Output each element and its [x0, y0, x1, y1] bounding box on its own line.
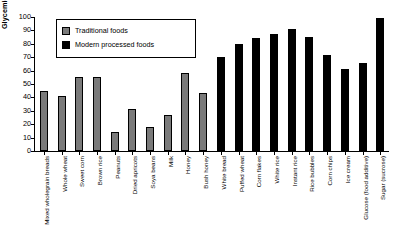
glycemic-index-bar-chart: Glycemic index 0102030405060708090100 Mi… — [0, 0, 393, 238]
y-tick-mark — [31, 84, 35, 85]
x-tick-mark — [168, 152, 169, 155]
bar — [235, 44, 243, 151]
x-label-slot: Bush honey — [194, 156, 212, 238]
x-label-slot: Ice cream — [336, 156, 354, 238]
x-tick-mark — [115, 152, 116, 155]
x-tick-label: Ice cream — [345, 156, 352, 236]
x-tick-mark — [62, 152, 63, 155]
bar — [376, 18, 384, 151]
y-tick-label: 90 — [10, 26, 31, 34]
bar-slot — [318, 17, 336, 151]
y-tick-label: 40 — [10, 93, 31, 101]
x-tick-label: Puffed wheat — [239, 156, 246, 236]
bar — [40, 91, 48, 151]
x-label-slot: Brown rice — [88, 156, 106, 238]
bar — [359, 63, 367, 151]
x-tick-label: Corn flakes — [256, 156, 263, 236]
x-tick-label: Milk — [168, 156, 175, 236]
y-tick-label: 60 — [10, 67, 31, 75]
bar-slot — [283, 17, 301, 151]
bar — [164, 115, 172, 151]
y-tick-mark — [31, 138, 35, 139]
x-tick-label: Corn chips — [327, 156, 334, 236]
x-tick-mark — [203, 152, 204, 155]
x-label-slot: Milk — [159, 156, 177, 238]
y-tick-label: 30 — [10, 107, 31, 115]
x-label-slot: Dried apricots — [124, 156, 142, 238]
bar — [252, 38, 260, 151]
x-tick-mark — [309, 152, 310, 155]
x-label-slot: Corn flakes — [247, 156, 265, 238]
x-label-slot: White rice — [265, 156, 283, 238]
y-tick-label: 0 — [10, 147, 31, 155]
y-tick-mark — [31, 44, 35, 45]
x-tick-mark — [150, 152, 151, 155]
x-label-slot: Instant rice — [283, 156, 301, 238]
x-tick-label: Peanuts — [115, 156, 122, 236]
x-tick-label: Sweet corn — [79, 156, 86, 236]
y-tick-mark — [31, 71, 35, 72]
bar — [341, 69, 349, 151]
x-tick-label: Sugar (sucrose) — [380, 156, 387, 236]
y-tick-label: 50 — [10, 80, 31, 88]
x-label-slot: Puffed wheat — [230, 156, 248, 238]
legend-item: Modern processed foods — [62, 38, 190, 52]
x-tick-label: Soya beans — [150, 156, 157, 236]
x-label-slot: Glucose (food additive) — [354, 156, 372, 238]
x-tick-mark — [44, 152, 45, 155]
x-tick-mark — [327, 152, 328, 155]
x-tick-label: Dried apricots — [132, 156, 139, 236]
bar-slot — [336, 17, 354, 151]
x-axis-tick-labels: Mixed wholegrain breadsWhole wheatSweet … — [35, 156, 389, 238]
bar-slot — [301, 17, 319, 151]
y-tick-mark — [31, 17, 35, 18]
y-axis-title: Glycemic index — [0, 0, 9, 50]
x-tick-label: Instant rice — [292, 156, 299, 236]
bar — [270, 34, 278, 151]
x-tick-mark — [380, 152, 381, 155]
bar-slot — [230, 17, 248, 151]
x-tick-mark — [292, 152, 293, 155]
y-tick-label: 20 — [10, 120, 31, 128]
bar — [288, 29, 296, 151]
x-tick-mark — [239, 152, 240, 155]
legend-swatch — [62, 27, 70, 35]
bar — [75, 77, 83, 151]
bar — [323, 55, 331, 151]
bar-slot — [247, 17, 265, 151]
x-tick-label: Glucose (food additive) — [363, 156, 370, 236]
y-tick-mark — [31, 30, 35, 31]
x-label-slot: Whole wheat — [53, 156, 71, 238]
x-tick-label: Whole wheat — [62, 156, 69, 236]
x-tick-label: Rice bubbles — [309, 156, 316, 236]
x-label-slot: Soya beans — [141, 156, 159, 238]
x-label-slot: White bread — [212, 156, 230, 238]
y-tick-mark — [31, 124, 35, 125]
legend-swatch — [62, 41, 70, 49]
bar — [199, 93, 207, 151]
x-label-slot: Sugar (sucrose) — [371, 156, 389, 238]
x-tick-label: Bush honey — [203, 156, 210, 236]
y-axis-tick-labels: 0102030405060708090100 — [10, 12, 31, 157]
bar — [217, 57, 225, 151]
bar — [93, 77, 101, 151]
y-tick-mark — [31, 97, 35, 98]
x-tick-label: Mixed wholegrain breads — [44, 156, 51, 236]
bar-slot — [371, 17, 389, 151]
bar — [181, 73, 189, 151]
y-tick-label: 100 — [10, 13, 31, 21]
bar-slot — [265, 17, 283, 151]
x-tick-label: White bread — [221, 156, 228, 236]
x-label-slot: Peanuts — [106, 156, 124, 238]
x-label-slot: Honey — [177, 156, 195, 238]
y-tick-label: 70 — [10, 53, 31, 61]
bar — [305, 37, 313, 151]
chart-legend: Traditional foodsModern processed foods — [56, 19, 196, 58]
x-tick-mark — [97, 152, 98, 155]
bar — [58, 96, 66, 151]
x-tick-label: Brown rice — [97, 156, 104, 236]
bar — [111, 132, 119, 151]
y-tick-label: 80 — [10, 40, 31, 48]
legend-label: Modern processed foods — [75, 41, 154, 49]
x-tick-label: Honey — [185, 156, 192, 236]
